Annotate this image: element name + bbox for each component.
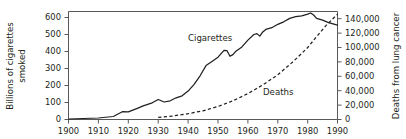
right-tick-label: 0 [345,114,350,124]
cigarettes-annotation-label: Cigarettes [188,33,233,43]
left-tick-label: 100 [45,97,61,107]
left-axis-title-line1: Billions of cigarettes [5,22,15,110]
left-tick-label: 600 [45,12,61,22]
x-tick-label: 1980 [297,126,318,136]
cigarettes-line [69,13,338,119]
right-tick-label: 120,000 [345,28,380,38]
plot-frame [69,12,338,120]
x-axis-ticks [69,120,338,124]
right-tick-label: 20,000 [345,100,374,110]
series-cigarettes [69,13,338,119]
right-tick-label: 140,000 [345,14,380,24]
x-tick-label: 1970 [267,126,288,136]
left-tick-labels: 0 100 200 300 400 500 600 [45,12,61,124]
x-tick-labels: 1900 1910 1920 1930 1940 1950 1960 1970 … [58,126,348,136]
right-axis-title-text: Deaths from lung cancer [391,12,401,119]
deaths-line [158,14,337,117]
x-tick-label: 1910 [88,126,109,136]
right-axis-title: Deaths from lung cancer [391,12,401,119]
series-annotations: Cigarettes Deaths [188,33,294,97]
right-tick-label: 100,000 [345,42,380,52]
left-axis-title: Billions of cigarettes smoked [5,22,27,110]
plot-border [69,12,338,120]
right-axis-ticks [338,19,342,120]
right-tick-label: 40,000 [345,86,374,96]
x-tick-label: 1940 [177,126,198,136]
figure-container: 0 100 200 300 400 500 600 0 20,000 40,00… [0,0,406,139]
series-deaths [158,14,337,117]
left-axis-ticks [65,18,69,120]
right-tick-labels: 0 20,000 40,000 60,000 80,000 100,000 12… [345,14,380,125]
x-tick-label: 1930 [148,126,169,136]
left-tick-label: 400 [45,46,61,56]
left-tick-label: 200 [45,80,61,90]
right-tick-label: 60,000 [345,71,374,81]
right-tick-label: 80,000 [345,57,374,67]
x-tick-label: 1900 [58,126,79,136]
left-axis-title-line2: smoked [17,49,27,83]
left-tick-label: 500 [45,29,61,39]
x-tick-label: 1950 [207,126,228,136]
cigarettes-vs-lung-cancer-deaths-chart: 0 100 200 300 400 500 600 0 20,000 40,00… [0,0,406,139]
x-tick-label: 1990 [327,126,348,136]
deaths-annotation-label: Deaths [263,87,294,97]
x-tick-label: 1960 [237,126,258,136]
left-tick-label: 300 [45,63,61,73]
left-tick-label: 0 [56,114,61,124]
x-tick-label: 1920 [118,126,139,136]
